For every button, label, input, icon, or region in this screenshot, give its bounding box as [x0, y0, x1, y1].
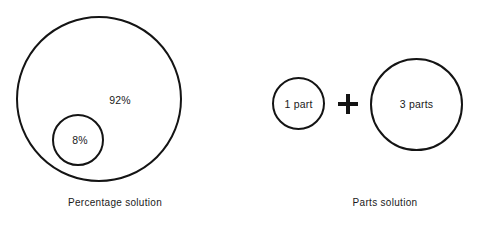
- outer-circle-percent-label: 92%: [109, 94, 131, 106]
- parts-panel-caption: Parts solution: [353, 197, 418, 208]
- solution-comparison-diagram: 92% 8% Percentage solution 1 part 3 part…: [0, 0, 485, 225]
- solution-outer-circle: [16, 16, 182, 182]
- percentage-panel-caption: Percentage solution: [68, 197, 162, 208]
- percentage-solution-panel: 92% 8% Percentage solution: [0, 0, 240, 225]
- three-parts-label: 3 parts: [400, 98, 434, 110]
- parts-solution-panel: 1 part 3 parts Parts solution: [240, 0, 485, 225]
- inner-circle-percent-label: 8%: [72, 134, 88, 146]
- one-part-label: 1 part: [284, 98, 312, 110]
- plus-icon: [338, 94, 358, 114]
- plus-icon-vertical-bar: [346, 94, 350, 114]
